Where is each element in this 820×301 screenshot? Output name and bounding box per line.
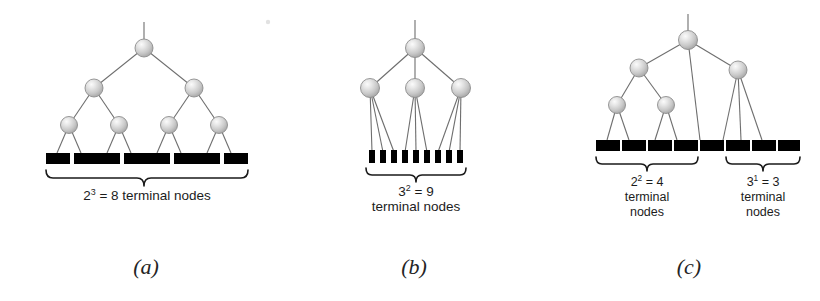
terminal-bar	[224, 153, 248, 164]
terminal-bar	[402, 150, 408, 163]
scan-artifact-speck	[266, 20, 270, 24]
panel-b-label-base: 3	[398, 184, 406, 199]
terminal-bar	[369, 150, 375, 163]
tree-node-internal	[211, 117, 228, 134]
tree-node-internal	[61, 117, 78, 134]
tree-node-internal	[361, 79, 380, 98]
panel-a-terminal-nodes	[46, 153, 248, 164]
terminal-bar	[424, 150, 430, 163]
tree-node-internal	[609, 97, 626, 114]
panel-c-terminal-nodes	[596, 140, 800, 151]
panel-c-right-base: 3	[747, 175, 754, 189]
tree-node-internal	[406, 79, 425, 98]
terminal-bar	[413, 150, 419, 163]
figure-container: 23 = 8 terminal nodes (a)	[0, 0, 820, 301]
terminal-bar	[196, 153, 220, 164]
tree-node-root	[679, 31, 698, 50]
panel-c-left-label-line2: terminal	[625, 190, 669, 204]
panel-c-right-label-line3: nodes	[746, 205, 780, 219]
tree-node-root	[135, 39, 153, 57]
terminal-bar	[174, 153, 198, 164]
panel-b-terminal-nodes	[369, 150, 463, 163]
tree-node-internal	[658, 97, 675, 114]
tree-node-root	[406, 39, 425, 58]
panel-c-left-base: 2	[631, 175, 638, 189]
terminal-bar	[596, 140, 620, 151]
terminal-bar	[446, 150, 452, 163]
panel-c-left-label-line3: nodes	[630, 205, 664, 219]
terminal-bar	[622, 140, 646, 151]
panel-b-label-rest: = 9	[411, 184, 434, 199]
terminal-bar	[391, 150, 397, 163]
terminal-bar	[778, 140, 800, 151]
tree-node-internal	[85, 79, 103, 97]
tree-node-internal	[185, 79, 203, 97]
terminal-bar	[146, 153, 170, 164]
panel-c-right-label-line1: 31 = 3	[747, 174, 780, 189]
panel-c-right-rest: = 3	[758, 175, 779, 189]
terminal-bar	[124, 153, 148, 164]
panel-b-brace-label-line2: terminal nodes	[372, 199, 461, 214]
tree-node-internal	[729, 61, 747, 79]
terminal-bar	[74, 153, 98, 164]
panel-c-right-label-line2: terminal	[741, 190, 785, 204]
terminal-bar	[435, 150, 441, 163]
terminal-bar	[726, 140, 750, 151]
panel-a-label-rest: = 8 terminal nodes	[96, 188, 211, 203]
panel-a-brace-label: 23 = 8 terminal nodes	[83, 187, 211, 203]
panel-a-label-base: 2	[83, 188, 91, 203]
panel-a-caption: (a)	[133, 254, 159, 279]
panel-c-left-rest: = 4	[642, 175, 663, 189]
panel-b-caption: (b)	[401, 254, 427, 279]
terminal-bar	[46, 153, 70, 164]
tree-figure-canvas: 23 = 8 terminal nodes (a)	[0, 0, 820, 301]
terminal-bar	[674, 140, 698, 151]
tree-node-internal	[452, 79, 471, 98]
tree-node-internal	[630, 59, 648, 77]
terminal-bar	[752, 140, 776, 151]
panel-c-left-label-line1: 22 = 4	[631, 174, 664, 189]
panel-b-brace-label-line1: 32 = 9	[398, 183, 433, 199]
terminal-bar	[96, 153, 120, 164]
terminal-bar	[700, 140, 724, 151]
terminal-bar	[457, 150, 463, 163]
panel-c-caption: (c)	[677, 254, 701, 279]
terminal-bar	[380, 150, 386, 163]
terminal-bar	[648, 140, 672, 151]
tree-node-internal	[111, 117, 128, 134]
tree-node-internal	[161, 117, 178, 134]
